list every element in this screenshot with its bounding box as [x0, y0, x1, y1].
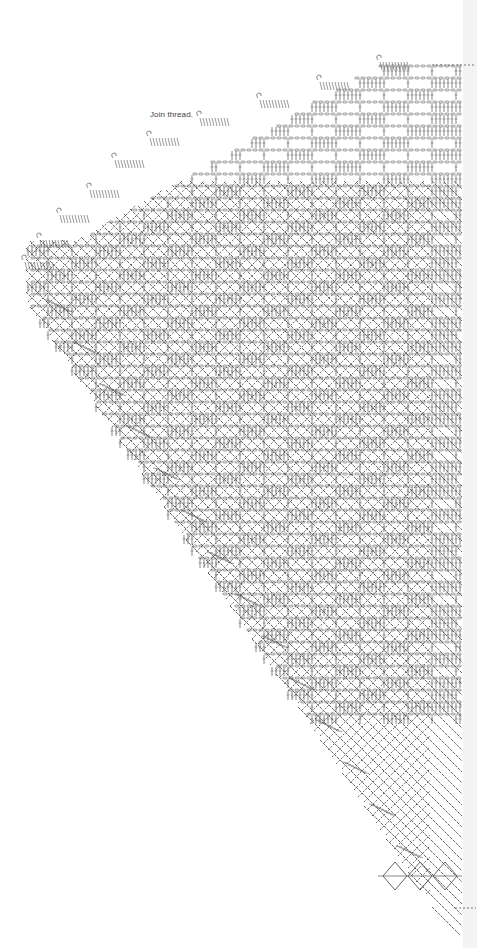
stitch-grid — [0, 0, 477, 948]
crochet-chart: Join thread. — [0, 0, 477, 948]
join-thread-annotation: Join thread. — [150, 110, 193, 119]
